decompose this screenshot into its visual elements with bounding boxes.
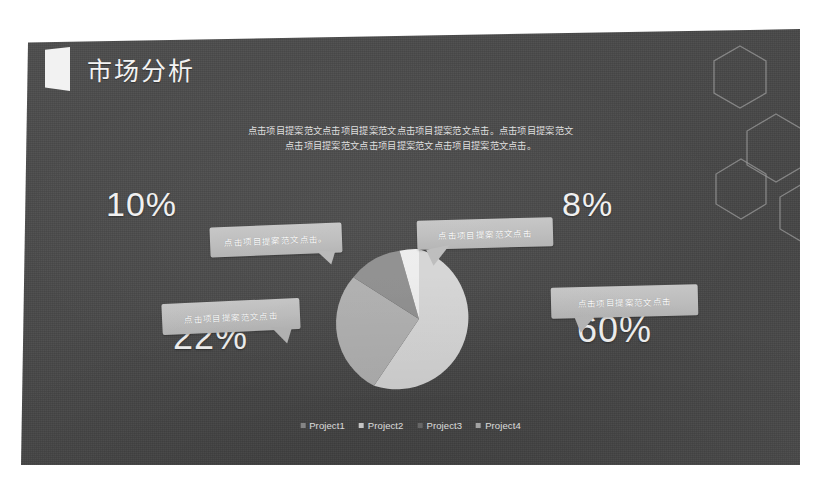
hexagon-icon [710, 44, 770, 110]
percent-label-project1: 10% [106, 187, 177, 221]
callout-bubble-1[interactable]: 点击项目提案范文点击。 [209, 222, 342, 257]
callout-bubble-2[interactable]: 点击项目提案范文点击 [417, 217, 554, 250]
body-paragraph-line-2: 点击项目提案范文点击项目提案范文点击项目提案范文点击。 [176, 139, 646, 154]
legend-item-project2[interactable]: Project2 [359, 420, 404, 431]
legend-item-project1[interactable]: Project1 [300, 420, 345, 431]
clipped-text: · · · · · · · · · · · · ▪ [8, 0, 168, 3]
legend-label: Project4 [485, 420, 521, 431]
title-block: 市场分析 [45, 47, 195, 91]
callout-pointer-tail [575, 315, 599, 334]
legend-swatch-icon [418, 423, 423, 428]
body-paragraph-line-1: 点击项目提案范文点击项目提案范文点击项目提案范文点击。点击项目提案范文 [248, 126, 574, 136]
chart-legend: Project1 Project2 Project3 Project4 [300, 420, 521, 431]
hexagon-icon [743, 112, 800, 184]
hexagon-icon [712, 157, 770, 221]
legend-swatch-icon [476, 423, 481, 428]
callout-text: 点击项目提案范文点击 [438, 226, 532, 241]
top-clipped-text-strip: · · · · · · · · · · · · ▪ [0, 0, 819, 16]
legend-swatch-icon [359, 423, 364, 428]
title-accent-shape [45, 47, 70, 91]
presentation-slide: 市场分析 点击项目提案范文点击项目提案范文点击项目提案范文点击。点击项目提案范文… [21, 29, 800, 465]
body-paragraph: 点击项目提案范文点击项目提案范文点击项目提案范文点击。点击项目提案范文 点击项目… [176, 124, 646, 154]
legend-item-project3[interactable]: Project3 [418, 420, 463, 431]
legend-label: Project3 [427, 420, 463, 431]
legend-label: Project2 [368, 420, 404, 431]
callout-pointer-tail [315, 251, 335, 265]
callout-text: 点击项目提案范文点击。 [224, 232, 328, 248]
hexagon-icon [776, 179, 800, 247]
legend-swatch-icon [300, 423, 305, 428]
percent-label-project3: 8% [562, 187, 613, 221]
pie-chart [329, 229, 509, 409]
page-title: 市场分析 [87, 51, 195, 87]
legend-label: Project1 [309, 420, 345, 431]
callout-bubble-3[interactable]: 点击项目提案范文点击 [161, 298, 300, 335]
callout-text: 点击项目提案范文点击 [184, 308, 278, 324]
callout-text: 点击项目提案范文点击 [577, 294, 671, 308]
callout-pointer-tail [269, 327, 291, 344]
callout-bubble-4[interactable]: 点击项目提案范文点击 [551, 284, 699, 319]
legend-item-project4[interactable]: Project4 [476, 420, 521, 431]
